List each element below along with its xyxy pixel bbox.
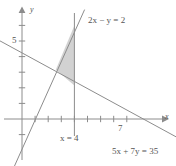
line-5x-plus-7y-equals-35 (0, 41, 176, 137)
y-axis-arrow-icon (19, 7, 26, 14)
y-axis-tick-label-5: 5 (12, 36, 17, 45)
graph-figure: 2x − y = 2 5x + 7y = 35 x = 4 5 7 x y (0, 0, 176, 166)
x-axis-tick-label-7: 7 (118, 124, 123, 133)
line-label-5x-plus-7y-equals-35: 5x + 7y = 35 (112, 147, 158, 156)
y-axis-label: y (30, 6, 34, 14)
line-label-x-equals-4: x = 4 (60, 134, 79, 143)
line-label-2x-minus-y-equals-2: 2x − y = 2 (88, 16, 125, 25)
x-axis-label: x (165, 113, 169, 121)
